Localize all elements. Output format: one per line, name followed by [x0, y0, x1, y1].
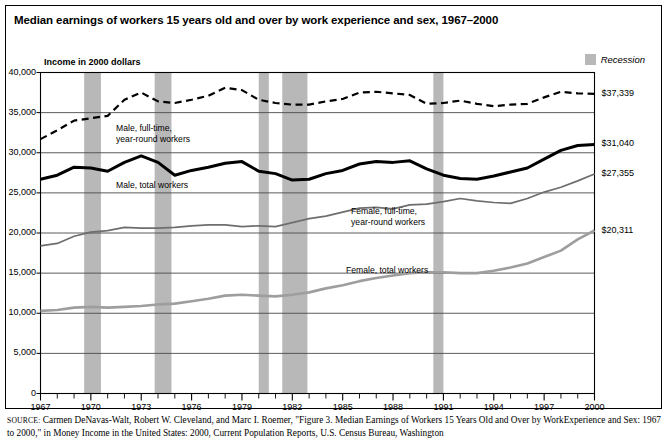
chart-canvas	[0, 0, 669, 441]
figure-root: Median earnings of workers 15 years old …	[0, 0, 669, 441]
source-text: Carmen DeNavas-Walt, Robert W. Cleveland…	[40, 415, 563, 425]
source-note: SOURCE: Carmen DeNavas-Walt, Robert W. C…	[7, 414, 667, 440]
source-label: SOURCE:	[7, 416, 40, 425]
